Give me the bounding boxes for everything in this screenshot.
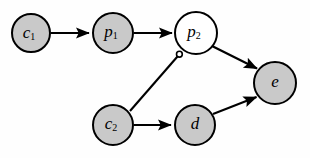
edge-d-to-e xyxy=(213,97,257,114)
node-d-base: d xyxy=(191,114,200,133)
node-d-label: d xyxy=(191,114,200,133)
node-p1-base: p xyxy=(103,22,113,41)
inhibitor-circle-marker xyxy=(177,51,183,57)
node-c1-subscript: 1 xyxy=(30,31,35,42)
node-d[interactable]: d xyxy=(175,105,215,145)
graph-svg: c1 p1 p2 c2 xyxy=(0,0,310,158)
diagram-canvas: c1 p1 p2 c2 xyxy=(0,0,310,158)
edge-c2-to-p2-inhibitory xyxy=(130,57,178,112)
node-c1[interactable]: c1 xyxy=(12,14,50,52)
edge-p2-to-e xyxy=(212,46,257,69)
node-c2[interactable]: c2 xyxy=(93,105,133,145)
node-p2[interactable]: p2 xyxy=(175,12,217,54)
edges-group xyxy=(51,33,257,125)
node-p1-subscript: 1 xyxy=(113,30,118,41)
node-c2-subscript: 2 xyxy=(112,122,117,133)
node-e-base: e xyxy=(271,72,279,91)
node-p2-subscript: 2 xyxy=(196,30,201,41)
node-p2-base: p xyxy=(186,22,196,41)
node-e-label: e xyxy=(271,72,279,91)
node-e[interactable]: e xyxy=(254,62,296,104)
node-p1[interactable]: p1 xyxy=(93,13,133,53)
